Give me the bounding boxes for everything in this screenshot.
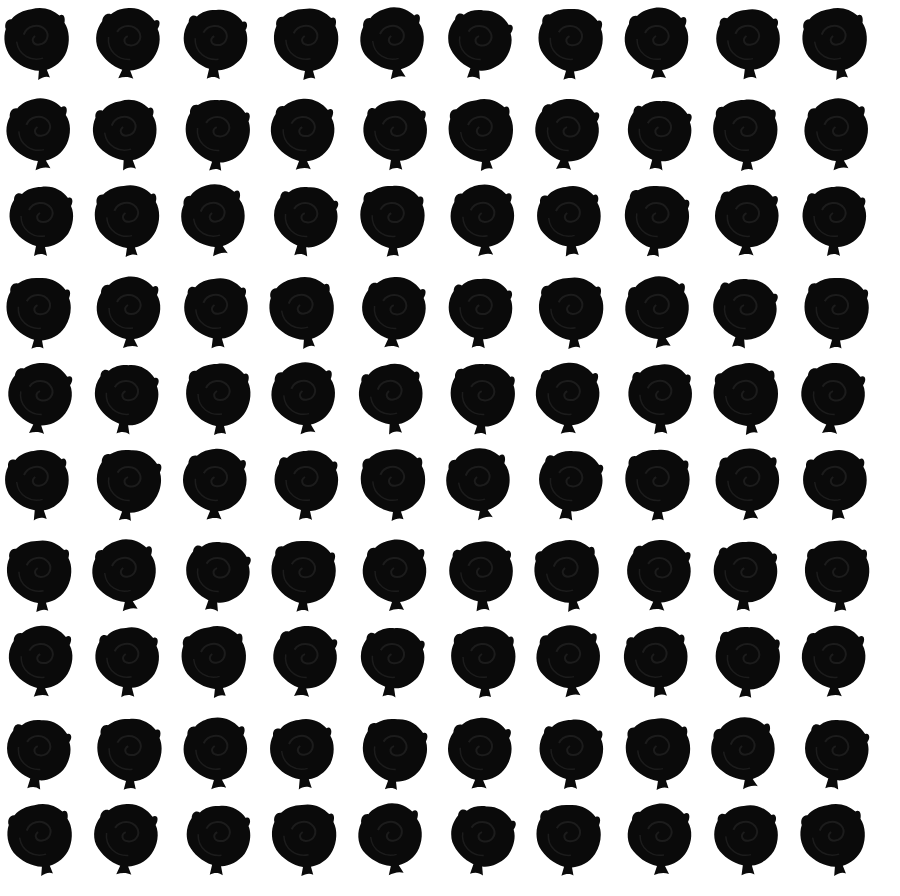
- rose-icon: [533, 621, 603, 701]
- rose-icon: [355, 358, 425, 438]
- rose-icon: [4, 358, 74, 438]
- rose-icon: [621, 444, 691, 524]
- rose-icon: [534, 444, 604, 524]
- rose-icon: [533, 180, 603, 260]
- rose-icon: [712, 444, 782, 524]
- rose-icon: [89, 94, 159, 174]
- rose-icon: [444, 713, 514, 793]
- rose-icon: [90, 799, 160, 879]
- rose-icon: [270, 444, 340, 524]
- rose-icon: [181, 94, 251, 174]
- rose-icon: [798, 180, 868, 260]
- rose-icon: [267, 94, 337, 174]
- rose-icon: [446, 358, 516, 438]
- rose-icon: [712, 3, 782, 83]
- rose-icon: [534, 3, 604, 83]
- rose-icon: [447, 180, 517, 260]
- rose-icon: [268, 358, 338, 438]
- rose-icon: [620, 621, 690, 701]
- rose-icon: [798, 621, 868, 701]
- rose-icon: [266, 272, 336, 352]
- rose-icon: [1, 444, 71, 524]
- rose-icon: [178, 621, 248, 701]
- rose-icon: [532, 358, 602, 438]
- rose-icon: [3, 94, 73, 174]
- rose-icon: [359, 94, 429, 174]
- rose-icon: [5, 621, 75, 701]
- rose-icon: [91, 180, 161, 260]
- rose-icon: [3, 535, 73, 615]
- rose-icon: [2, 713, 72, 793]
- rose-icon: [180, 272, 250, 352]
- rose-icon: [357, 444, 427, 524]
- rose-icon: [535, 713, 605, 793]
- rose-icon: [93, 713, 163, 793]
- rose-icon: [797, 799, 867, 879]
- rose-icon: [266, 713, 336, 793]
- rose-icon: [797, 358, 867, 438]
- rose-icon: [711, 180, 781, 260]
- rose-icon: [623, 535, 693, 615]
- rose-icon: [799, 444, 869, 524]
- rose-icon: [269, 180, 339, 260]
- rose-icon: [2, 272, 72, 352]
- rose-icon: [182, 358, 252, 438]
- rose-icon: [356, 621, 426, 701]
- rose-icon: [801, 94, 871, 174]
- rose-icon: [91, 621, 161, 701]
- rose-icon: [623, 94, 693, 174]
- rose-pattern-grid: [0, 0, 900, 896]
- rose-icon: [4, 799, 74, 879]
- rose-icon: [531, 94, 601, 174]
- rose-icon: [268, 799, 338, 879]
- rose-icon: [90, 358, 160, 438]
- rose-icon: [708, 713, 778, 793]
- rose-icon: [620, 180, 690, 260]
- rose-icon: [800, 272, 870, 352]
- rose-icon: [179, 3, 249, 83]
- rose-icon: [801, 535, 871, 615]
- rose-icon: [800, 713, 870, 793]
- rose-icon: [711, 621, 781, 701]
- rose-icon: [445, 94, 515, 174]
- rose-icon: [444, 272, 514, 352]
- rose-icon: [1, 3, 71, 83]
- rose-icon: [5, 180, 75, 260]
- rose-icon: [624, 799, 694, 879]
- rose-icon: [532, 799, 602, 879]
- rose-icon: [269, 621, 339, 701]
- rose-icon: [709, 94, 779, 174]
- rose-icon: [178, 180, 248, 260]
- rose-icon: [356, 180, 426, 260]
- rose-icon: [622, 272, 692, 352]
- rose-icon: [447, 621, 517, 701]
- rose-icon: [89, 535, 159, 615]
- rose-icon: [446, 799, 516, 879]
- rose-icon: [799, 3, 869, 83]
- rose-icon: [710, 799, 780, 879]
- rose-icon: [267, 535, 337, 615]
- rose-icon: [359, 535, 429, 615]
- rose-icon: [92, 444, 162, 524]
- rose-icon: [179, 444, 249, 524]
- rose-icon: [270, 3, 340, 83]
- rose-icon: [358, 713, 428, 793]
- rose-icon: [709, 535, 779, 615]
- rose-icon: [710, 358, 780, 438]
- rose-icon: [445, 535, 515, 615]
- rose-icon: [93, 272, 163, 352]
- rose-icon: [181, 535, 251, 615]
- rose-icon: [443, 444, 513, 524]
- rose-icon: [443, 3, 513, 83]
- rose-icon: [621, 3, 691, 83]
- rose-icon: [180, 713, 250, 793]
- rose-icon: [531, 535, 601, 615]
- rose-icon: [182, 799, 252, 879]
- rose-icon: [708, 272, 778, 352]
- rose-icon: [358, 272, 428, 352]
- rose-icon: [92, 3, 162, 83]
- rose-icon: [535, 272, 605, 352]
- rose-icon: [355, 799, 425, 879]
- rose-icon: [357, 3, 427, 83]
- rose-icon: [622, 713, 692, 793]
